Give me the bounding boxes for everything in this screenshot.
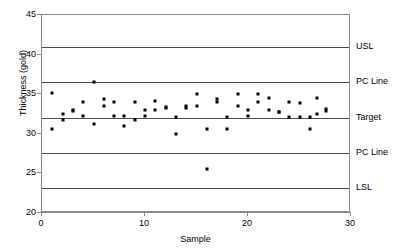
data-point: [144, 109, 147, 112]
data-point: [133, 101, 136, 104]
data-point: [154, 100, 157, 103]
data-point: [82, 101, 85, 104]
data-point: [267, 109, 270, 112]
x-axis-line: [41, 212, 350, 213]
data-point: [308, 128, 311, 131]
plot-area: [41, 14, 350, 212]
x-axis-tick: [350, 212, 351, 216]
reference-line-label: PC Line: [356, 148, 388, 157]
data-point: [61, 113, 64, 116]
data-point: [154, 109, 157, 112]
reference-line-label: USL: [356, 42, 374, 51]
data-point: [316, 113, 319, 116]
x-axis-tick-label: 10: [124, 218, 164, 228]
data-point: [195, 105, 198, 108]
data-point: [185, 106, 188, 109]
data-point: [298, 101, 301, 104]
x-axis-tick: [247, 212, 248, 216]
data-point: [195, 93, 198, 96]
x-axis-tick-label: 30: [330, 218, 370, 228]
data-point: [102, 105, 105, 108]
data-point: [308, 116, 311, 119]
data-point: [92, 80, 95, 83]
x-axis-tick: [144, 212, 145, 216]
data-point: [92, 123, 95, 126]
data-point: [144, 115, 147, 118]
data-point: [288, 116, 291, 119]
x-axis-tick: [41, 212, 42, 216]
data-point: [257, 101, 260, 104]
data-point: [113, 101, 116, 104]
reference-line: [42, 188, 349, 189]
data-point: [236, 93, 239, 96]
data-point: [174, 132, 177, 135]
y-axis-tick-label: 45: [0, 10, 36, 19]
x-axis-title: Sample: [41, 234, 350, 244]
x-axis-tick-label: 20: [227, 218, 267, 228]
data-point: [226, 128, 229, 131]
data-point: [174, 116, 177, 119]
data-point: [257, 93, 260, 96]
data-point: [216, 101, 219, 104]
reference-line: [42, 47, 349, 48]
data-point: [316, 97, 319, 100]
data-point: [205, 128, 208, 131]
y-axis-tick-label: 30: [0, 129, 36, 138]
y-axis-tick-label: 40: [0, 50, 36, 59]
reference-line-label: LSL: [356, 183, 372, 192]
reference-line-label: PC Line: [356, 77, 388, 86]
data-point: [113, 115, 116, 118]
data-point: [236, 105, 239, 108]
data-point: [277, 111, 280, 114]
reference-line: [42, 82, 349, 83]
y-axis-tick-label: 20: [0, 208, 36, 217]
data-point: [247, 115, 250, 118]
y-axis-tick-label: 35: [0, 89, 36, 98]
reference-line: [42, 118, 349, 119]
data-point: [123, 115, 126, 118]
data-point: [267, 97, 270, 100]
data-point: [205, 167, 208, 170]
data-point: [133, 118, 136, 121]
data-point: [61, 119, 64, 122]
data-point: [247, 109, 250, 112]
control-chart: Thickness (gold) 202530354045 0102030 Sa…: [0, 0, 396, 252]
data-point: [102, 97, 105, 100]
data-point: [51, 92, 54, 95]
data-point: [164, 107, 167, 110]
reference-line-label: Target: [356, 113, 381, 122]
y-axis-tick-label: 25: [0, 168, 36, 177]
data-point: [226, 116, 229, 119]
data-point: [71, 109, 74, 112]
data-point: [123, 124, 126, 127]
data-point: [82, 115, 85, 118]
x-axis-tick-label: 0: [21, 218, 61, 228]
data-point: [325, 109, 328, 112]
data-point: [51, 128, 54, 131]
data-point: [288, 101, 291, 104]
data-point: [298, 116, 301, 119]
reference-line: [42, 153, 349, 154]
